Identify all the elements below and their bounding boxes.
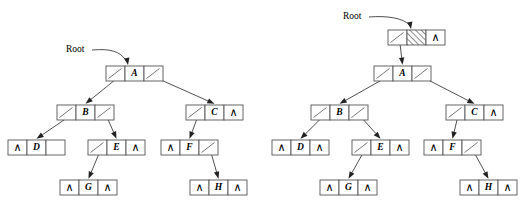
tree-node-G: ∧G∧ — [320, 180, 377, 195]
edge-A-left-to-B — [86, 78, 118, 104]
arrow-head-icon — [483, 171, 489, 179]
node-cell-group-F-1: F — [443, 140, 462, 155]
edge-F-right-to-H — [474, 152, 489, 179]
node-value-label: G — [345, 182, 352, 192]
arrow-head-icon — [124, 57, 129, 65]
node-cell-group-H-2: ∧ — [228, 180, 247, 195]
node-cell-group-E-2: ∧ — [390, 140, 409, 155]
node-cell-group-B-1: B — [76, 105, 95, 120]
node-cell-group-F-0: ∧ — [424, 140, 443, 155]
node-value-label: H — [484, 182, 493, 192]
nil-pointer-symbol: ∧ — [277, 141, 285, 153]
arrow-head-icon — [399, 57, 404, 64]
tree-node-D: ∧D — [8, 140, 65, 155]
node-cell-group-H-1: H — [209, 180, 228, 195]
node-cell-group-E-2: ∧ — [126, 140, 145, 155]
binary-tree-linked-representation-figure: ABC∧∧DE∧∧F∧G∧∧H∧∧ABC∧∧D∧E∧∧F∧G∧∧H∧ RootR… — [0, 0, 531, 219]
nil-pointer-symbol: ∧ — [13, 141, 21, 153]
node-cell-group-F-1: F — [180, 140, 199, 155]
edge-A-right-to-C — [424, 78, 475, 104]
arrow-head-icon — [407, 21, 412, 29]
nil-pointer-symbol: ∧ — [65, 181, 73, 193]
arrow-head-icon — [89, 171, 94, 179]
node-value-label: B — [81, 107, 88, 117]
node-cell-group-C-1: C — [465, 105, 484, 120]
node-value-label: D — [296, 142, 304, 152]
tree-node-G: ∧G∧ — [60, 180, 117, 195]
arrow-head-icon — [340, 98, 348, 104]
hatched-cell — [407, 30, 426, 45]
nil-pointer-symbol: ∧ — [315, 141, 323, 153]
node-cell-group-A-1: A — [125, 66, 144, 81]
node-value-label: B — [335, 107, 342, 117]
node-cell-group-HEADER-1 — [407, 30, 426, 45]
tree-node-H: ∧H∧ — [460, 180, 517, 195]
node-cell-group-H-0: ∧ — [460, 180, 479, 195]
node-value-label: E — [376, 142, 383, 152]
node-cell-group-D-0: ∧ — [8, 140, 27, 155]
node-value-label: G — [85, 182, 92, 192]
node-value-label: F — [448, 142, 456, 152]
arrow-head-icon — [467, 98, 475, 104]
nil-pointer-symbol: ∧ — [233, 181, 241, 193]
node-value-label: A — [130, 68, 137, 78]
node-cell-group-D-2: ∧ — [310, 140, 329, 155]
node-value-label: C — [211, 107, 218, 117]
node-cell-group-G-2: ∧ — [98, 180, 117, 195]
node-cell-group-G-0: ∧ — [60, 180, 79, 195]
diagram-canvas: ABC∧∧DE∧∧F∧G∧∧H∧∧ABC∧∧D∧E∧∧F∧G∧∧H∧ RootR… — [0, 0, 531, 219]
node-value-label: E — [112, 142, 119, 152]
node-cell-group-B-1: B — [330, 105, 349, 120]
arrow-head-icon — [214, 171, 219, 179]
nil-pointer-symbol: ∧ — [363, 181, 371, 193]
node-value-label: H — [214, 182, 223, 192]
root-pointer-curve — [369, 17, 410, 25]
tree-nodes-layer: ABC∧∧DE∧∧F∧G∧∧H∧∧ABC∧∧D∧E∧∧F∧G∧∧H∧ — [8, 30, 517, 195]
arrow-head-icon — [189, 131, 194, 139]
nil-pointer-symbol: ∧ — [229, 106, 237, 118]
nil-pointer-symbol: ∧ — [429, 141, 437, 153]
arrow-head-icon — [349, 171, 355, 179]
node-cell-group-D-2 — [46, 140, 65, 155]
node-cell-group-E-1: E — [107, 140, 126, 155]
nil-pointer-symbol: ∧ — [431, 31, 439, 43]
root-pointer-curve — [92, 50, 127, 61]
node-cell-group-D-0: ∧ — [272, 140, 291, 155]
node-cell-group-A-1: A — [393, 66, 412, 81]
root-label: Root — [66, 44, 85, 54]
node-value-label: D — [32, 142, 40, 152]
nil-pointer-symbol: ∧ — [395, 141, 403, 153]
node-cell-group-D-1: D — [27, 140, 46, 155]
arrow-head-icon — [207, 98, 215, 103]
node-value-label: F — [185, 142, 193, 152]
node-cell-group-HEADER-2: ∧ — [426, 30, 445, 45]
nil-pointer-symbol: ∧ — [503, 181, 511, 193]
root-label: Root — [343, 11, 362, 21]
edge-E-left-to-G — [349, 152, 364, 179]
edge-E-left-to-G — [89, 152, 100, 179]
root-labels-layer: RootRoot — [66, 11, 412, 65]
nil-pointer-symbol: ∧ — [166, 141, 174, 153]
nil-pointer-symbol: ∧ — [131, 141, 139, 153]
nil-pointer-symbol: ∧ — [489, 106, 497, 118]
tree-node-H: ∧H∧ — [190, 180, 247, 195]
node-cell-group-F-0: ∧ — [161, 140, 180, 155]
edge-A-right-to-C — [156, 78, 215, 104]
node-cell-group-H-2: ∧ — [498, 180, 517, 195]
tree-node-F: ∧F — [161, 140, 218, 155]
node-value-label: C — [471, 107, 478, 117]
node-cell-group-C-1: C — [205, 105, 224, 120]
tree-node-F: ∧F — [424, 140, 481, 155]
edge-F-right-to-H — [211, 152, 219, 179]
node-cell-group-C-2: ∧ — [224, 105, 243, 120]
node-cell-group-D-1: D — [291, 140, 310, 155]
node-cell-group-H-0: ∧ — [190, 180, 209, 195]
node-cell-group-G-1: G — [339, 180, 358, 195]
arrow-head-icon — [86, 97, 93, 104]
node-cell-group-G-0: ∧ — [320, 180, 339, 195]
node-cell-group-C-2: ∧ — [484, 105, 503, 120]
nil-pointer-symbol: ∧ — [465, 181, 473, 193]
node-cell-group-E-1: E — [371, 140, 390, 155]
node-cell-group-G-1: G — [79, 180, 98, 195]
tree-node-D: ∧D∧ — [272, 140, 329, 155]
